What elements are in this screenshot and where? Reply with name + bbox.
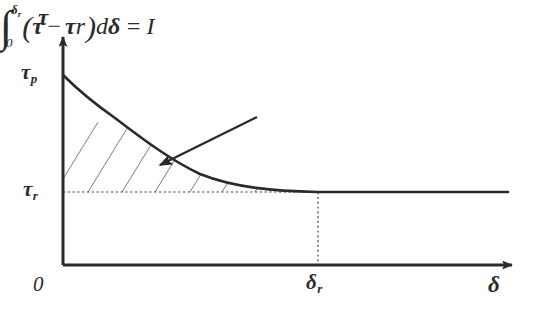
integral-upper-symbol: δ bbox=[11, 2, 18, 17]
tau-peak-label: τp bbox=[21, 62, 37, 83]
delta-residual-label: δr bbox=[306, 272, 322, 293]
diagram-canvas bbox=[0, 0, 541, 326]
integral-upper-subscript: r bbox=[18, 9, 21, 19]
open-paren: ( bbox=[22, 10, 32, 44]
annotation-pointer-arrow bbox=[160, 117, 257, 165]
shear-stress-curve bbox=[63, 75, 508, 192]
tau-residual-subscript: r bbox=[33, 188, 38, 203]
figure-root: τ δ τp τr δr 0 ∫ δr 0 ( τ − τr ) d δ = I bbox=[0, 0, 541, 326]
integral-lower-limit: 0 bbox=[6, 35, 16, 51]
tau-peak-symbol: τ bbox=[21, 60, 30, 84]
tau-residual-label: τr bbox=[23, 179, 37, 200]
y-axis-label: τ bbox=[38, 6, 48, 29]
close-paren: ) bbox=[85, 10, 96, 44]
x-axis-label: δ bbox=[488, 273, 500, 296]
tau-peak-subscript: p bbox=[31, 71, 38, 86]
hatched-area bbox=[55, 122, 353, 192]
tau-residual-symbol: τ bbox=[23, 177, 32, 201]
origin-label: 0 bbox=[33, 274, 44, 295]
delta-residual-symbol: δ bbox=[306, 270, 317, 294]
integral-upper-limit: δr bbox=[11, 2, 21, 18]
delta-residual-subscript: r bbox=[317, 281, 322, 296]
